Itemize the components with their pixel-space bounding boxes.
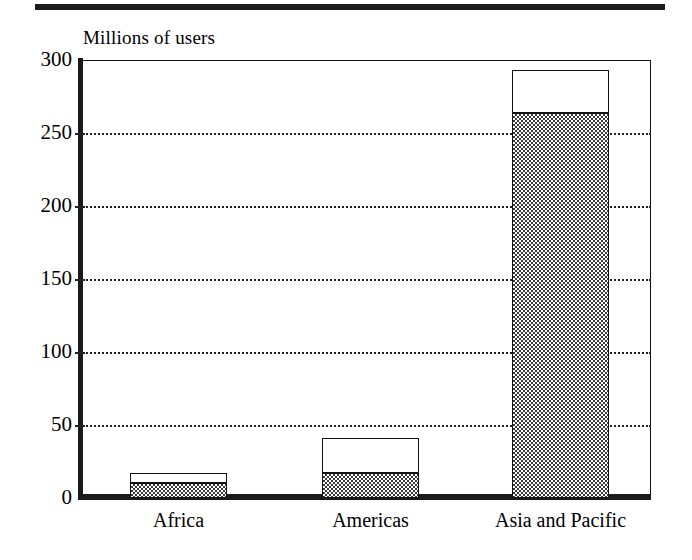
y-axis-tick-text: 50 bbox=[8, 414, 72, 435]
y-axis-tick-text: 250 bbox=[8, 122, 72, 143]
x-axis-label-americas: Americas bbox=[261, 508, 481, 532]
bar-asia-and-pacific bbox=[512, 70, 609, 498]
y-axis-tick-text: 100 bbox=[8, 341, 72, 362]
bar-segment-upper bbox=[130, 473, 227, 483]
y-axis-tick bbox=[75, 133, 85, 135]
y-axis-tick-text: 0 bbox=[8, 487, 72, 508]
y-axis-title: Millions of users bbox=[83, 27, 215, 49]
bar-segment-lower bbox=[512, 113, 609, 498]
y-axis-tick bbox=[75, 206, 85, 208]
y-axis-tick bbox=[75, 279, 85, 281]
bar-segment-lower bbox=[322, 473, 419, 498]
bar-segment-lower bbox=[130, 483, 227, 498]
y-axis-tick bbox=[75, 425, 85, 427]
top-rule-divider bbox=[35, 4, 665, 10]
bar-segment-upper bbox=[512, 70, 609, 112]
y-axis-tick-text: 200 bbox=[8, 195, 72, 216]
bar-africa bbox=[130, 473, 227, 498]
y-axis-tick-text: 150 bbox=[8, 268, 72, 289]
x-axis-label-asia-and-pacific: Asia and Pacific bbox=[451, 508, 671, 532]
bar-segment-upper bbox=[322, 438, 419, 473]
bar-americas bbox=[322, 438, 419, 498]
y-axis-tick bbox=[75, 352, 85, 354]
x-axis-label-africa: Africa bbox=[69, 508, 289, 532]
y-axis-tick-text: 300 bbox=[8, 49, 72, 70]
chart-figure: Millions of users 050100150200250300 Afr… bbox=[0, 0, 692, 560]
